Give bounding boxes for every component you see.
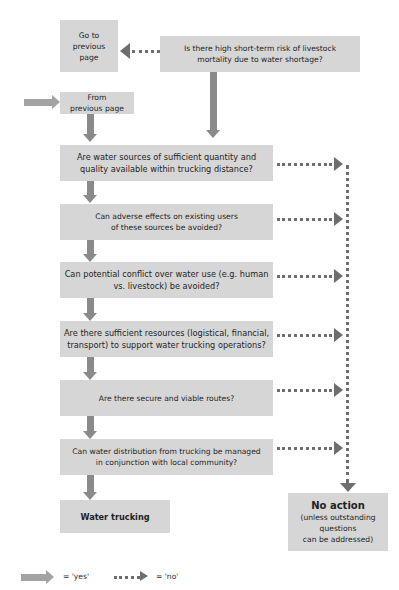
go-to-previous-page-box: Go to previous page	[60, 20, 118, 72]
no-action-note: (unless outstanding questions can be add…	[300, 512, 375, 545]
no-arrow-q4-head-icon	[334, 328, 343, 342]
no-arrow-q6-head-icon	[334, 441, 343, 455]
no-arrow-q6-line	[277, 447, 332, 450]
question-label-1: Are water sources of sufficient quantity…	[77, 151, 256, 175]
no-action-box: No action (unless outstanding questions …	[288, 493, 388, 551]
no-arrow-collector-head-icon	[340, 483, 356, 492]
go-to-previous-page-label: Go to previous page	[73, 30, 105, 63]
no-arrow-q1-line	[277, 163, 332, 166]
question-box-6: Can water distribution from trucking be …	[60, 439, 273, 475]
question-box-4: Are there sufficient resources (logistic…	[60, 321, 273, 357]
no-arrow-q3-line	[277, 275, 332, 278]
from-previous-page-label: From previous page	[70, 92, 124, 114]
no-arrow-q1-head-icon	[334, 157, 343, 171]
no-arrow-q4-line	[277, 334, 332, 337]
legend-yes-arrow-head-icon	[46, 570, 54, 584]
from-previous-page-box: From previous page	[60, 92, 134, 114]
legend-no-arrow-line	[114, 576, 140, 579]
no-action-title: No action	[311, 499, 365, 512]
no-collector-line	[346, 165, 349, 483]
no-arrow-q2-line	[277, 218, 332, 221]
water-trucking-box: Water trucking	[60, 500, 170, 533]
top-question-label: Is there high short-term risk of livesto…	[184, 43, 336, 65]
legend-yes-label: = 'yes'	[63, 572, 89, 581]
no-arrow-top-head-icon	[120, 43, 130, 59]
question-box-3: Can potential conflict over water use (e…	[60, 262, 273, 298]
yes-arrow-entry-head-icon	[52, 95, 60, 109]
legend-no-label: = 'no'	[156, 572, 178, 581]
legend-yes-arrow-shaft	[21, 574, 46, 581]
no-arrow-q2-head-icon	[334, 212, 343, 226]
water-trucking-label: Water trucking	[80, 511, 149, 523]
question-box-2: Can adverse effects on existing users of…	[60, 204, 273, 240]
no-arrow-q3-head-icon	[334, 269, 343, 283]
question-label-6: Can water distribution from trucking be …	[72, 446, 260, 468]
no-arrow-q5-head-icon	[334, 383, 343, 397]
question-label-3: Can potential conflict over water use (e…	[65, 268, 269, 292]
question-label-2: Can adverse effects on existing users of…	[95, 211, 238, 233]
yes-arrow-entry-shaft	[24, 99, 52, 106]
top-question-box: Is there high short-term risk of livesto…	[160, 36, 360, 72]
question-label-5: Are there secure and viable routes?	[99, 393, 234, 404]
question-box-5: Are there secure and viable routes?	[60, 380, 273, 416]
no-arrow-q5-line	[277, 389, 332, 392]
question-box-1: Are water sources of sufficient quantity…	[60, 145, 273, 181]
question-label-4: Are there sufficient resources (logistic…	[64, 327, 269, 351]
legend-no-arrow-head-icon	[140, 571, 148, 581]
no-arrow-top-line	[132, 50, 160, 53]
